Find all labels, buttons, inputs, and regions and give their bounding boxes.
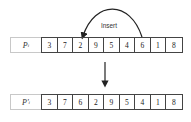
- gene-cell: 2: [89, 95, 105, 109]
- gene-cell: 4: [135, 95, 151, 109]
- gene-cell: 5: [120, 95, 136, 109]
- gene-cell: 7: [58, 38, 74, 52]
- offspring-label-subscript: i: [29, 100, 30, 105]
- gene-cell: 5: [104, 38, 120, 52]
- parent-label: Pi: [10, 37, 41, 53]
- gene-cell: 1: [151, 95, 167, 109]
- gene-cell: 8: [166, 95, 182, 109]
- parent-cells: 3 7 2 9 5 4 6 1 8: [41, 37, 183, 53]
- gene-cell: 9: [89, 38, 105, 52]
- offspring-label: P'i: [10, 94, 41, 110]
- gene-cell: 3: [42, 38, 58, 52]
- offspring-row: P'i 3 7 6 2 9 5 4 1 8: [10, 94, 183, 110]
- gene-cell: 9: [104, 95, 120, 109]
- gene-cell: 7: [58, 95, 74, 109]
- offspring-label-text: P': [22, 98, 29, 107]
- gene-cell: 6: [135, 38, 151, 52]
- insert-label: Insert: [101, 21, 117, 30]
- gene-cell: 3: [42, 95, 58, 109]
- parent-label-subscript: i: [28, 43, 29, 48]
- gene-cell: 8: [166, 38, 182, 52]
- offspring-cells: 3 7 6 2 9 5 4 1 8: [41, 94, 183, 110]
- gene-cell: 2: [73, 38, 89, 52]
- gene-cell: 1: [151, 38, 167, 52]
- gene-cell: 6: [73, 95, 89, 109]
- parent-row: Pi 3 7 2 9 5 4 6 1 8: [10, 37, 183, 53]
- gene-cell: 4: [120, 38, 136, 52]
